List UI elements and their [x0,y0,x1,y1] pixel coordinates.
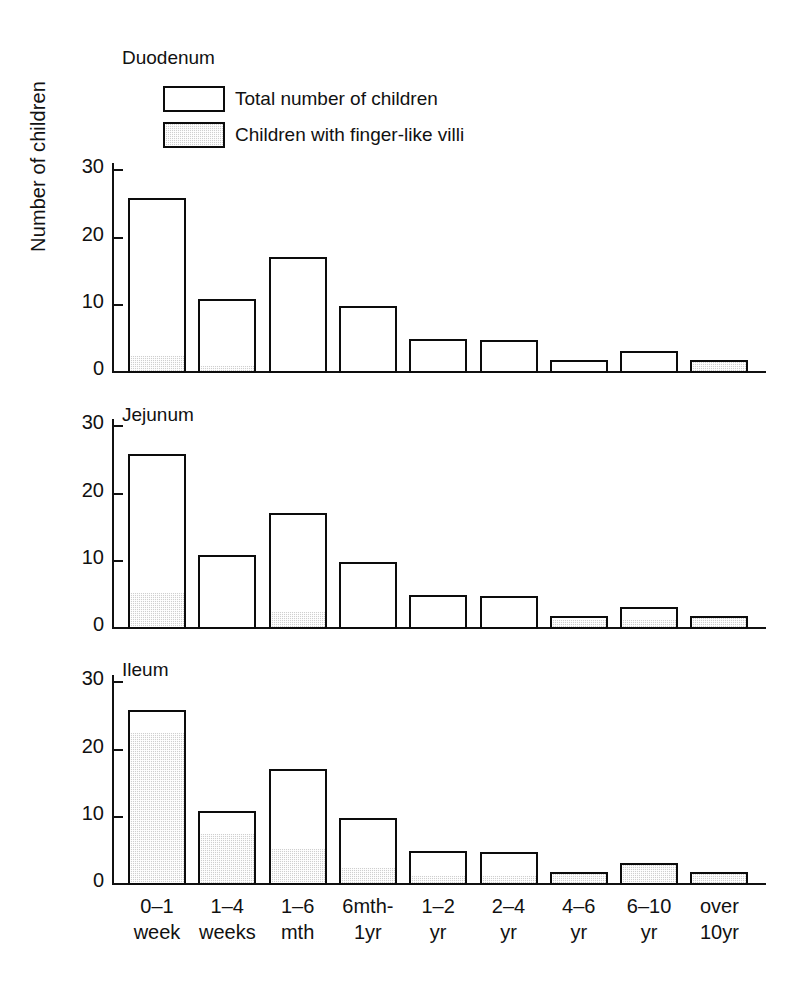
bar-fingerlike-segment [130,733,184,883]
bar-fingerlike-segment [341,868,395,883]
y-axis-tick [112,681,123,683]
bar-fingerlike-segment [411,876,465,883]
bar [409,851,467,885]
bar-fingerlike-segment [200,834,254,883]
y-axis-line [112,675,114,885]
bar [480,852,538,885]
bar [339,818,397,885]
legend-swatch-fingerlike [163,122,225,148]
bar [550,872,608,885]
x-axis-label: over 10yr [674,894,764,945]
legend-label-fingerlike: Children with finger-like villi [235,124,464,146]
bar-fingerlike-segment [622,865,676,883]
y-axis-tick-label: 0 [34,869,104,892]
y-axis-tick [112,749,123,751]
bar [690,872,748,885]
y-axis-tick-label: 20 [34,735,104,758]
bar [128,710,186,885]
legend-label-total: Total number of children [235,88,438,110]
bar [198,811,256,885]
chart-figure: Number of children Duodenum0102030Jejunu… [0,0,804,986]
panel-title: Ileum [122,659,168,681]
bar [269,769,327,885]
panel-ileum: Ileum0102030 [0,0,804,986]
y-axis-tick [112,816,123,818]
y-axis-tick-label: 30 [34,667,104,690]
bar [620,863,678,885]
bar-fingerlike-segment [482,876,536,883]
y-axis-tick-label: 10 [34,802,104,825]
bar-fingerlike-segment [552,874,606,883]
bar-fingerlike-segment [692,874,746,883]
bar-fingerlike-segment [271,849,325,883]
legend-swatch-total [163,86,225,112]
